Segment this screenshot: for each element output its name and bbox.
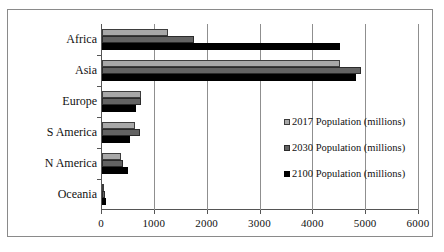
legend-label-0: 2017 Population (millions) [292,116,405,127]
category-divider-oceania [97,179,101,180]
x-tick-label-6000: 6000 [388,217,444,229]
bar-n-america-2017 [102,153,121,160]
bar-n-america-2030 [102,160,123,167]
legend-entry-0[interactable]: 2017 Population (millions) [284,116,405,127]
bar-europe-2030 [102,98,141,105]
bar-s-america-2017 [102,122,135,129]
bar-europe-2017 [102,91,141,98]
legend-swatch-2017-icon [284,119,290,125]
x-tick-1000 [154,210,155,214]
gridline-2000 [207,24,208,210]
x-tick-label-1000: 1000 [124,217,184,229]
category-divider-europe [97,86,101,87]
bar-asia-2030 [102,67,361,74]
x-tick-2000 [207,210,208,214]
x-tick-5000 [365,210,366,214]
category-divider-n-america [97,148,101,149]
legend-swatch-2100-icon [284,171,290,177]
category-divider-s-america [97,117,101,118]
bar-asia-2017 [102,60,340,67]
bar-africa-2017 [102,29,168,36]
legend-entry-2[interactable]: 2100 Population (millions) [284,168,405,179]
bar-oceania-2017 [102,184,104,191]
x-tick-4000 [312,210,313,214]
legend-label-2: 2100 Population (millions) [292,168,405,179]
x-tick-3000 [260,210,261,214]
legend-label-1: 2030 Population (millions) [292,142,405,153]
category-divider-asia [97,55,101,56]
category-label-asia: Asia [9,63,97,78]
x-tick-label-4000: 4000 [282,217,342,229]
bar-africa-2030 [102,36,194,43]
category-label-oceania: Oceania [9,187,97,202]
bar-n-america-2100 [102,167,128,174]
x-tick-label-2000: 2000 [177,217,237,229]
category-label-europe: Europe [9,94,97,109]
x-tick-label-0: 0 [71,217,131,229]
gridline-3000 [260,24,261,210]
legend-entry-1[interactable]: 2030 Population (millions) [284,142,405,153]
bar-s-america-2030 [102,129,140,136]
bar-s-america-2100 [102,136,130,143]
x-tick-label-3000: 3000 [230,217,290,229]
bar-oceania-2100 [102,198,106,205]
legend-swatch-2030-icon [284,145,290,151]
chart-outer-frame: 0100020003000400050006000 AfricaAsiaEuro… [7,9,433,237]
bar-africa-2100 [102,43,340,50]
bar-europe-2100 [102,105,136,112]
bar-asia-2100 [102,74,356,81]
x-tick-6000 [418,210,419,214]
category-label-africa: Africa [9,32,97,47]
category-label-s-america: S America [9,125,97,140]
gridline-1000 [154,24,155,210]
bar-oceania-2030 [102,191,105,198]
x-tick-label-5000: 5000 [335,217,395,229]
chart-page: 0100020003000400050006000 AfricaAsiaEuro… [0,0,444,252]
gridline-6000 [418,24,419,210]
category-label-n-america: N America [9,156,97,171]
x-tick-0 [101,210,102,214]
